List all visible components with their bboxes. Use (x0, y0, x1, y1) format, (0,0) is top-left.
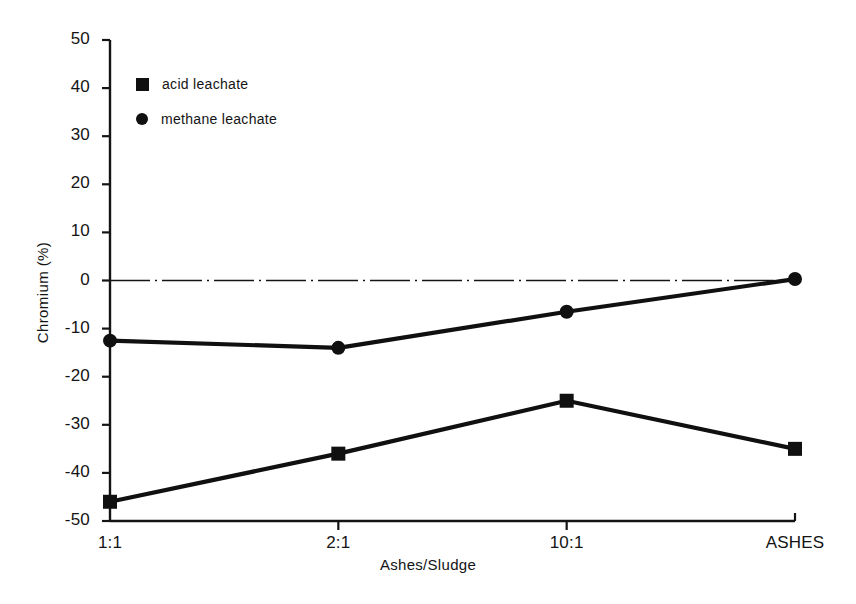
data-point-square (560, 394, 574, 408)
x-axis-title: Ashes/Sludge (0, 556, 856, 573)
y-tick-label: -30 (44, 414, 90, 434)
legend-item-methane-leachate: methane leachate (136, 105, 277, 133)
y-tick-label: 30 (44, 125, 90, 145)
y-tick-label: 50 (44, 29, 90, 49)
legend-label-acid-leachate: acid leachate (162, 76, 248, 92)
y-tick-label: -50 (44, 510, 90, 530)
x-tick-marks (338, 521, 566, 530)
x-tick-label: 2:1 (326, 533, 350, 553)
y-tick-label: 20 (44, 173, 90, 193)
data-point-circle (560, 305, 574, 319)
y-tick-label: 10 (44, 221, 90, 241)
x-tick-label: 1:1 (98, 533, 122, 553)
x-tick-label: ASHES (766, 533, 825, 553)
circle-marker-icon (136, 113, 148, 125)
chart-plot-area (0, 0, 856, 604)
y-axis-title: Chromium (%) (34, 203, 51, 383)
y-tick-label: -10 (44, 318, 90, 338)
x-tick-label: 10:1 (550, 533, 584, 553)
y-tick-label: 40 (44, 77, 90, 97)
legend-label-methane-leachate: methane leachate (161, 111, 277, 127)
chromium-leachate-chart: 50403020100-10-20-30-40-50 1:12:110:1ASH… (0, 0, 856, 604)
data-point-circle (788, 272, 802, 286)
data-point-square (103, 495, 117, 509)
series-line-methane-leachate (110, 279, 795, 348)
legend-item-acid-leachate: acid leachate (136, 70, 277, 98)
series-line-acid-leachate (110, 401, 795, 502)
data-point-square (331, 447, 345, 461)
y-tick-label: 0 (44, 270, 90, 290)
data-point-circle (103, 334, 117, 348)
y-tick-label: -40 (44, 462, 90, 482)
data-point-circle (331, 341, 345, 355)
y-tick-label: -20 (44, 366, 90, 386)
square-marker-icon (136, 78, 149, 91)
data-point-square (788, 442, 802, 456)
series-markers-acid-leachate (103, 394, 802, 509)
chart-legend: acid leachate methane leachate (136, 70, 277, 140)
